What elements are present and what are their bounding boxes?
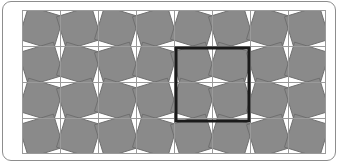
tile-square — [57, 78, 102, 122]
tile-square — [95, 78, 140, 122]
tile-square — [209, 10, 254, 50]
tile-square — [133, 78, 178, 122]
tile-square — [209, 78, 254, 122]
tile-square — [247, 114, 292, 154]
tiling-pattern-svg — [22, 10, 326, 154]
tile-square — [247, 42, 292, 86]
tile-square — [247, 10, 292, 50]
tile-square — [57, 10, 102, 50]
tile-square — [133, 10, 178, 50]
tile-square — [247, 78, 292, 122]
tile-square — [285, 10, 326, 50]
tile-square — [133, 114, 178, 154]
tile-square — [285, 114, 326, 154]
tile-square — [57, 114, 102, 154]
figure-root — [0, 0, 341, 165]
tile-square — [95, 42, 140, 86]
tile-square — [285, 78, 326, 122]
tile-square — [57, 42, 102, 86]
tile-square — [95, 10, 140, 50]
tile-square — [22, 10, 63, 50]
tiling-pattern-panel — [22, 10, 326, 154]
tile-square — [133, 42, 178, 86]
tile-square — [22, 114, 63, 154]
tile-square — [95, 114, 140, 154]
tile-square — [22, 78, 63, 122]
tile-square — [171, 10, 216, 50]
